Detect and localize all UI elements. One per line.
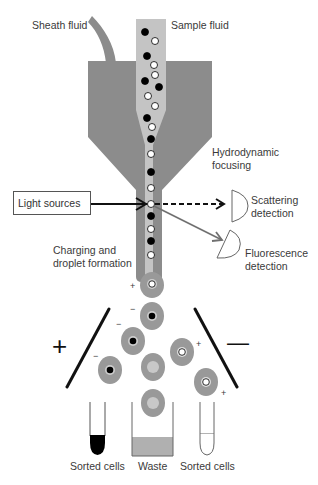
fluorescence-label-1: Fluorescence (245, 247, 308, 260)
right-collection-tube (200, 402, 214, 455)
fluorescence-arrow (154, 206, 222, 241)
sheath-fluid-label: Sheath fluid (32, 19, 87, 32)
sorted-cells-left-label: Sorted cells (70, 460, 125, 473)
sheath-tube (88, 16, 116, 63)
waste-label: Waste (138, 460, 167, 473)
fluorescence-label-2: detection (245, 260, 288, 273)
charging-label-1: Charging and (53, 244, 116, 257)
sorted-cells-right-label: Sorted cells (180, 460, 235, 473)
drop-charge-pos-2: + (221, 387, 226, 400)
fluorescence-detector-icon (217, 230, 240, 258)
drop-charge-neg-1: − (130, 303, 135, 316)
left-collection-tube (90, 402, 105, 455)
light-sources-box: Light sources (13, 191, 91, 215)
first-drop-charge: + (130, 280, 135, 293)
hydrodynamic-label-1: Hydrodynamic (212, 146, 279, 159)
sample-fluid-label: Sample fluid (171, 19, 229, 32)
hydrodynamic-label-2: focusing (212, 159, 251, 172)
scattering-label-2: detection (251, 207, 294, 220)
drop-charge-neg-3: − (93, 350, 98, 363)
flow-cytometer-diagram (0, 0, 318, 485)
scattering-label-1: Scattering (251, 194, 298, 207)
scattering-detector-icon (232, 190, 248, 222)
drop-charge-neg-2: − (116, 318, 121, 331)
negative-plate-sign: — (227, 331, 249, 355)
drop-charge-pos-1: + (196, 338, 201, 351)
scattering-arrow (155, 199, 224, 209)
charging-label-2: droplet formation (53, 257, 132, 270)
positive-plate-sign: + (52, 333, 67, 359)
